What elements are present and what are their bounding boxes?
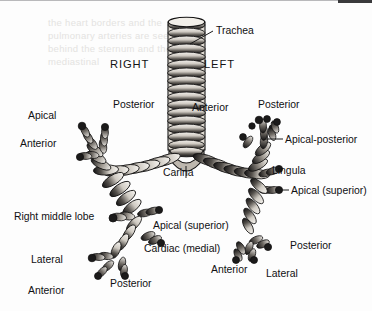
label-right-lower-anterior: Anterior	[28, 285, 64, 296]
label-right-middle-lobe: Right middle lobe	[14, 211, 94, 222]
label-right-lower-posterior: Posterior	[110, 278, 152, 289]
right-lateral-segment	[88, 252, 114, 262]
left-lower-anterior-segment	[232, 240, 247, 263]
label-left-apical-posterior: Apical-posterior	[285, 134, 357, 145]
label-right-posterior: Posterior	[113, 99, 155, 110]
label-left-posterior: Posterior	[258, 99, 300, 110]
label-left-lingula: Lingula	[272, 165, 306, 176]
left-upper-lobe-bronchus	[247, 140, 273, 174]
right-bronchus-intermedius	[100, 170, 143, 218]
bronchial-tree-figure: the heart borders and the pulmonary arte…	[0, 0, 372, 311]
right-lower-posterior-segment	[117, 256, 128, 279]
label-left-lower-posterior: Posterior	[290, 240, 332, 251]
right-lower-anterior-segment	[95, 259, 116, 280]
label-carina: Carina	[163, 167, 194, 178]
label-right-anterior: Anterior	[20, 138, 56, 149]
orientation-label-right: RIGHT	[110, 58, 149, 70]
left-lower-lobe-bronchus	[240, 176, 269, 235]
label-left-anterior: Anterior	[192, 102, 228, 113]
label-trachea: Trachea	[216, 25, 254, 36]
left-anterior-segment	[240, 134, 255, 150]
label-right-apical-superior: Apical (superior)	[153, 220, 229, 231]
label-right-apical: Apical	[28, 110, 56, 121]
label-right-cardiac-medial: Cardiac (medial)	[144, 243, 220, 254]
orientation-label-left: LEFT	[204, 58, 235, 70]
label-left-lower-lateral: Lateral	[266, 268, 298, 279]
label-left-lower-anterior: Anterior	[211, 264, 247, 275]
label-left-apical-superior: Apical (superior)	[291, 185, 367, 196]
label-right-lateral: Lateral	[31, 254, 63, 265]
